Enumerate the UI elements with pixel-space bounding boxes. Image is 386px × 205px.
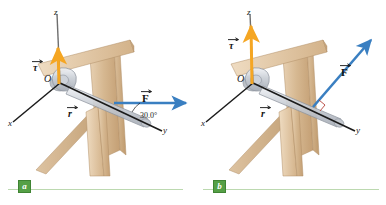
x-axis-label: x [201, 119, 205, 128]
x-axis [206, 83, 253, 122]
right-angle-marker [319, 100, 325, 111]
z-axis-label: z [247, 8, 251, 17]
position-vector-label: r [261, 104, 265, 120]
vector-overarrow-icon [141, 89, 151, 93]
caption-bar-b: b [193, 180, 386, 200]
x-axis [13, 83, 60, 122]
origin-label: O [44, 74, 51, 84]
x-axis-label: x [8, 119, 12, 128]
y-axis-label: y [356, 126, 360, 135]
angle-label: 30.0° [140, 111, 157, 120]
vector-overarrow-icon [340, 63, 350, 67]
origin-label: O [237, 74, 244, 84]
vector-overarrow-icon [228, 37, 235, 41]
position-vector-label: r [68, 104, 72, 120]
caption-rule [203, 189, 379, 190]
panel-b: x y z O τ r F [193, 0, 386, 205]
caption-badge-a: a [18, 180, 31, 193]
vector-overarrow-icon [260, 105, 267, 109]
torque-vector-arrow [58, 48, 59, 84]
caption-badge-b: b [213, 180, 226, 193]
torque-figure: x y z O τ r F [0, 0, 386, 205]
torque-vector-label: τ [229, 36, 233, 52]
torque-vector-arrow [251, 26, 252, 84]
panel-a-artwork [0, 0, 193, 178]
panel-a: x y z O τ r F [0, 0, 193, 205]
torque-vector-label: τ [33, 58, 37, 74]
caption-bar-a: a [0, 180, 193, 200]
panel-b-artwork [193, 0, 386, 178]
z-axis-label: z [54, 8, 58, 17]
force-vector-label: F [142, 89, 149, 105]
y-axis-label: y [163, 126, 167, 135]
vector-overarrow-icon [67, 105, 74, 109]
vector-overarrow-icon [32, 59, 39, 63]
force-vector-label: F [341, 63, 348, 79]
caption-rule [8, 189, 183, 190]
angle-arc [132, 103, 140, 112]
